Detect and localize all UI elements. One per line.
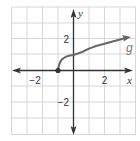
curve-label-g: g (126, 41, 133, 55)
tick-label-y-neg2: −2 (58, 97, 70, 108)
tick-label-y-pos2: 2 (63, 34, 69, 45)
graph: −2 2 2 −2 y x g (0, 0, 140, 141)
y-axis (71, 9, 77, 135)
start-point (55, 68, 60, 73)
y-axis-label: y (77, 7, 83, 19)
x-axis (12, 68, 133, 74)
x-axis-label: x (126, 74, 132, 86)
tick-label-x-neg2: −2 (29, 75, 41, 86)
tick-label-x-pos2: 2 (102, 75, 108, 86)
